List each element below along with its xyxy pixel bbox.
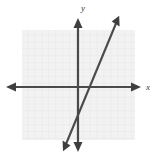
x-axis-label: x [145, 82, 150, 92]
y-axis-up-arrowhead [74, 18, 83, 28]
x-axis-right-arrowhead [131, 83, 141, 92]
x-axis-left-arrowhead [6, 83, 16, 92]
graph-figure: y x [0, 0, 157, 159]
coordinate-plane-svg: y x [0, 0, 157, 159]
y-axis-down-arrowhead [74, 142, 83, 152]
y-axis-label: y [80, 3, 85, 13]
